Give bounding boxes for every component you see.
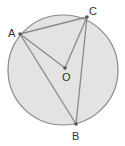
point-b bbox=[74, 122, 78, 126]
label-c: C bbox=[89, 5, 97, 17]
label-o: O bbox=[62, 71, 71, 83]
circle bbox=[8, 15, 118, 125]
label-a: A bbox=[8, 27, 16, 39]
point-o bbox=[63, 66, 67, 70]
circle-geometry-diagram: A C O B bbox=[0, 0, 125, 146]
label-b: B bbox=[72, 130, 79, 142]
point-a bbox=[18, 32, 22, 36]
